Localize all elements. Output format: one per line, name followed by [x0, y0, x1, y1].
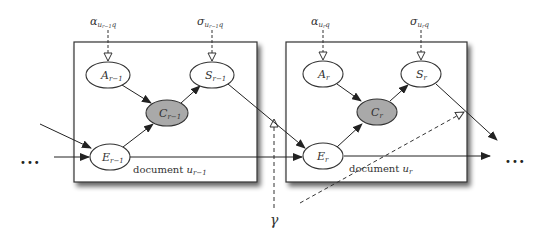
node-e-prev: Er−1 [90, 144, 130, 170]
sigma-curr-label: σurq [410, 15, 429, 29]
node-e-curr: Er [303, 143, 343, 169]
node-s-curr: Sr [401, 61, 441, 87]
gamma-label: γ [270, 212, 279, 228]
ellipsis-right: ••• [505, 156, 526, 167]
node-c-curr: Cr [357, 99, 397, 125]
node-c-prev: Cr−1 [146, 100, 188, 126]
alpha-prev-label: αur−1q [90, 15, 117, 29]
graphical-model-diagram: Ar−1 Sr−1 Cr−1 Er−1 Ar Sr Cr Er αur−1q σ… [0, 0, 538, 239]
node-a-curr: Ar [303, 61, 343, 87]
node-s-prev: Sr−1 [190, 62, 234, 88]
ellipsis-left: ••• [20, 157, 41, 168]
sigma-prev-label: σur−1q [197, 15, 224, 29]
node-a-prev: Ar−1 [86, 62, 130, 88]
alpha-curr-label: αurq [311, 15, 330, 29]
